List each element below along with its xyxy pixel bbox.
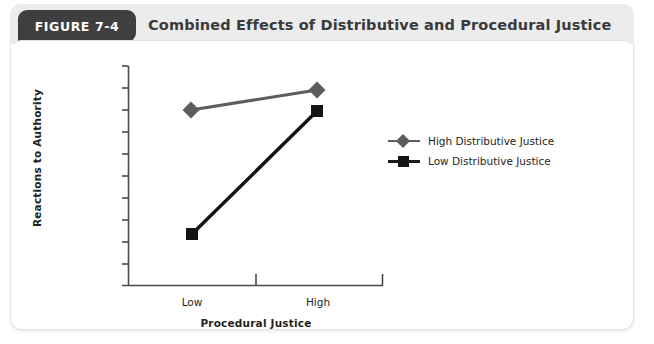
figure-number-label: FIGURE 7-4 xyxy=(35,19,120,34)
figure-panel: FIGURE 7-4 Combined Effects of Distribut… xyxy=(0,0,654,344)
figure-number-tab: FIGURE 7-4 xyxy=(18,10,136,42)
figure-title: Combined Effects of Distributive and Pro… xyxy=(148,17,611,33)
figure-card-body xyxy=(10,44,634,330)
